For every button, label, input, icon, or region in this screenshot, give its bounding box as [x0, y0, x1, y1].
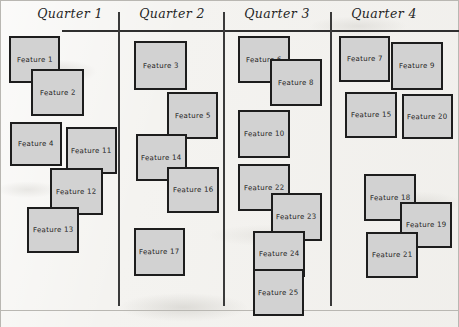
feature-card-label: Feature 24 — [259, 250, 300, 258]
feature-card[interactable]: Feature 11 — [66, 127, 117, 174]
frame-edge-top — [0, 0, 459, 1]
feature-card-label: Feature 11 — [71, 146, 112, 154]
feature-card-label: Feature 2 — [40, 88, 76, 96]
feature-card-label: Feature 7 — [347, 55, 383, 63]
quarter-header-q1: Quarter 1 — [22, 6, 118, 21]
feature-card-label: Feature 1 — [17, 55, 53, 63]
feature-card-label: Feature 18 — [370, 193, 411, 201]
feature-card-label: Feature 12 — [56, 187, 97, 195]
feature-card[interactable]: Feature 15 — [345, 92, 397, 138]
quarter-header-q4-label: Quarter 4 — [351, 6, 417, 21]
feature-card[interactable]: Feature 25 — [253, 269, 304, 316]
feature-card[interactable]: Feature 4 — [10, 122, 62, 166]
feature-card[interactable]: Feature 9 — [391, 42, 443, 90]
frame-edge-left — [0, 0, 1, 327]
quarter-header-q2-label: Quarter 2 — [139, 6, 205, 21]
feature-card[interactable]: Feature 21 — [366, 232, 418, 278]
feature-card[interactable]: Feature 5 — [167, 92, 218, 139]
quarter-header-q2: Quarter 2 — [124, 6, 220, 21]
feature-card-label: Feature 9 — [399, 62, 435, 70]
roadmap-board: Quarter 1 Quarter 2 Quarter 3 Quarter 4 … — [0, 0, 459, 327]
feature-card[interactable]: Feature 13 — [27, 207, 79, 253]
feature-card[interactable]: Feature 7 — [339, 36, 390, 82]
feature-card-label: Feature 4 — [18, 140, 54, 148]
feature-card-label: Feature 25 — [258, 288, 299, 296]
feature-card[interactable]: Feature 8 — [270, 59, 322, 106]
column-divider-after-q2 — [223, 12, 225, 306]
feature-card[interactable]: Feature 17 — [134, 228, 185, 276]
feature-card-label: Feature 19 — [406, 221, 447, 229]
feature-card[interactable]: Feature 16 — [167, 167, 219, 213]
feature-card-label: Feature 15 — [351, 111, 392, 119]
column-divider-after-q3 — [330, 12, 332, 306]
feature-card[interactable]: Feature 3 — [134, 41, 187, 90]
feature-card-label: Feature 17 — [139, 248, 180, 256]
quarter-header-q1-label: Quarter 1 — [37, 6, 103, 21]
column-divider-after-q1 — [118, 12, 120, 306]
feature-card-label: Feature 23 — [276, 213, 317, 221]
quarter-header-q4: Quarter 4 — [336, 6, 432, 21]
feature-card-label: Feature 5 — [175, 111, 211, 119]
feature-card-label: Feature 14 — [141, 153, 182, 161]
feature-card[interactable]: Feature 10 — [238, 110, 290, 158]
feature-card-label: Feature 22 — [244, 183, 285, 191]
feature-card-label: Feature 20 — [407, 112, 448, 120]
quarter-header-q3-label: Quarter 3 — [244, 6, 310, 21]
header-underline-rule — [62, 30, 459, 32]
feature-card-label: Feature 3 — [143, 61, 179, 69]
feature-card-label: Feature 8 — [278, 78, 314, 86]
feature-card[interactable]: Feature 20 — [402, 94, 453, 139]
feature-card[interactable]: Feature 2 — [31, 69, 84, 116]
feature-card-label: Feature 13 — [33, 226, 74, 234]
frame-edge-bottom — [0, 310, 459, 311]
quarter-header-q3: Quarter 3 — [229, 6, 325, 21]
feature-card-label: Feature 21 — [372, 251, 413, 259]
feature-card-label: Feature 16 — [173, 186, 214, 194]
feature-card-label: Feature 10 — [244, 130, 285, 138]
